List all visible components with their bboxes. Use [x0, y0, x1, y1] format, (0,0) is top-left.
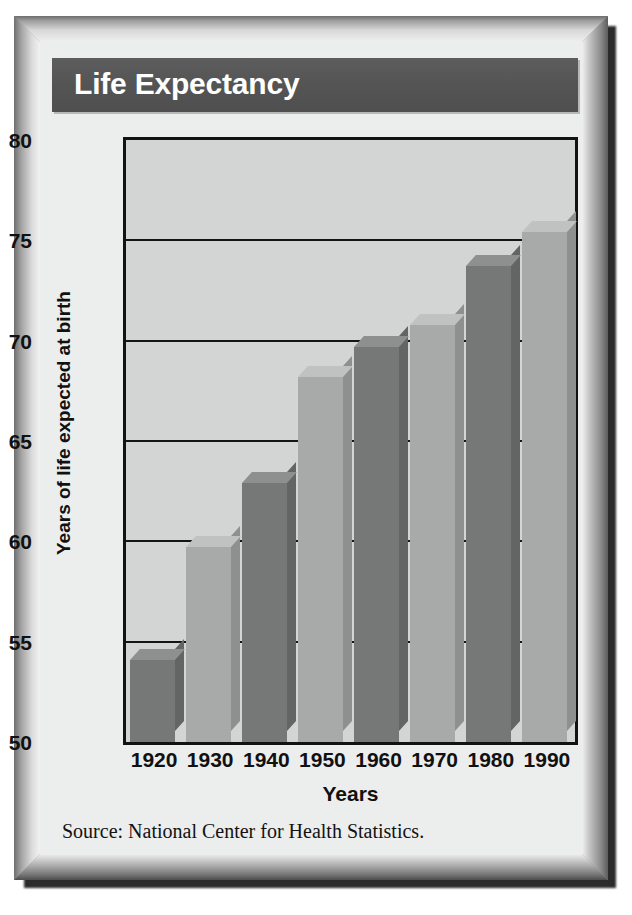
bar	[354, 347, 399, 742]
chart-area: Years of life expected at birth 50556065…	[40, 42, 582, 854]
x-tick-label: 1950	[294, 748, 350, 772]
bar-series	[126, 140, 575, 742]
y-tick-label: 75	[0, 229, 32, 253]
bar	[466, 266, 511, 742]
plot-area	[123, 137, 578, 745]
x-tick-label: 1960	[351, 748, 407, 772]
y-tick-label: 65	[0, 430, 32, 454]
bar	[242, 483, 287, 742]
bar-front-face	[242, 483, 287, 742]
x-tick-label: 1990	[519, 748, 575, 772]
y-tick-label: 60	[0, 530, 32, 554]
y-tick-label: 50	[0, 731, 32, 755]
bar	[130, 660, 175, 742]
bar-front-face	[466, 266, 511, 742]
bar-side-face	[399, 326, 408, 731]
bar-top-face	[298, 366, 353, 377]
bar-front-face	[130, 660, 175, 742]
x-axis-ticks: 19201930194019501960197019801990	[123, 748, 578, 778]
frame-bevel-top	[14, 16, 608, 42]
bar-top-face	[130, 649, 185, 660]
y-tick-label: 70	[0, 330, 32, 354]
figure-root: Life Expectancy Years of life expected a…	[0, 0, 632, 915]
bar-side-face	[231, 526, 240, 731]
chart-card: Life Expectancy Years of life expected a…	[40, 42, 582, 854]
frame-bevel-bottom	[14, 854, 608, 880]
y-tick-label: 55	[0, 631, 32, 655]
bar-side-face	[343, 356, 352, 731]
x-tick-label: 1980	[463, 748, 519, 772]
frame-bevel-right	[582, 16, 608, 880]
bar-front-face	[298, 377, 343, 742]
bar-front-face	[186, 547, 231, 742]
x-tick-label: 1930	[182, 748, 238, 772]
bar-side-face	[287, 462, 296, 731]
bar-side-face	[511, 245, 520, 731]
x-tick-label: 1970	[407, 748, 463, 772]
x-tick-label: 1920	[126, 748, 182, 772]
bar	[522, 232, 567, 742]
bar	[186, 547, 231, 742]
x-axis-label: Years	[123, 782, 578, 806]
bar	[298, 377, 343, 742]
bar-side-face	[567, 211, 576, 731]
y-tick-label: 80	[0, 129, 32, 153]
bar-front-face	[354, 347, 399, 742]
source-note: Source: National Center for Health Stati…	[62, 820, 424, 843]
x-tick-label: 1940	[238, 748, 294, 772]
bar	[410, 325, 455, 742]
bar-side-face	[455, 304, 464, 731]
bar-front-face	[522, 232, 567, 742]
bar-front-face	[410, 325, 455, 742]
